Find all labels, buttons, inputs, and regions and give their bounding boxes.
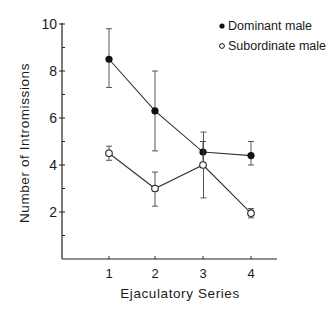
- data-series: [105, 29, 254, 218]
- y-tick-label: 4: [49, 157, 57, 173]
- x-axis-label: Ejaculatory Series: [120, 286, 240, 301]
- x-tick-label: 4: [247, 266, 254, 281]
- y-tick-label: 10: [41, 16, 57, 32]
- series-subordinate: [106, 132, 255, 218]
- filled-circle-marker-icon: [247, 152, 254, 159]
- open-circle-marker-icon: [152, 185, 159, 192]
- legend-label-subordinate: Subordinate male: [228, 39, 326, 53]
- axes: 2468101234: [41, 16, 277, 281]
- x-tick-label: 3: [199, 266, 206, 281]
- y-tick-label: 6: [49, 110, 57, 126]
- x-tick-label: 1: [105, 266, 112, 281]
- series-line: [109, 153, 251, 213]
- legend-label-dominant: Dominant male: [228, 19, 312, 33]
- filled-circle-marker-icon: [151, 107, 158, 114]
- open-circle-marker-icon: [200, 162, 207, 169]
- open-circle-marker-icon: [106, 150, 113, 157]
- legend-marker-subordinate-icon: [220, 44, 225, 49]
- open-circle-marker-icon: [248, 210, 255, 217]
- y-axis-label: Number of Intromissions: [17, 63, 32, 223]
- legend-marker-dominant-icon: [219, 23, 224, 28]
- filled-circle-marker-icon: [105, 56, 112, 63]
- y-tick-label: 8: [49, 63, 57, 79]
- x-tick-label: 2: [151, 266, 158, 281]
- legend: Dominant male Subordinate male: [219, 19, 326, 53]
- series-line: [109, 59, 251, 155]
- line-chart: 2468101234 Dominant male Subordinate mal…: [0, 0, 333, 312]
- y-tick-label: 2: [49, 204, 57, 220]
- chart-container: 2468101234 Dominant male Subordinate mal…: [0, 0, 333, 312]
- filled-circle-marker-icon: [199, 148, 206, 155]
